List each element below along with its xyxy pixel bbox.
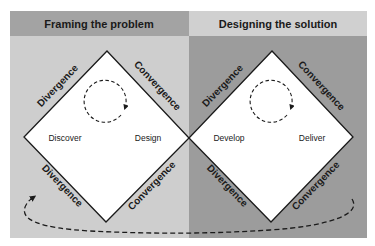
double-diamond-diagram: Framing the problem Designing the soluti… xyxy=(0,0,375,246)
phase-title: Designing the solution xyxy=(219,18,338,30)
phase-title: Framing the problem xyxy=(44,18,154,30)
stage-label-develop: Develop xyxy=(213,133,244,143)
stage-label-design: Design xyxy=(135,133,162,143)
stage-label-discover: Discover xyxy=(48,133,81,143)
stage-label-deliver: Deliver xyxy=(299,133,326,143)
